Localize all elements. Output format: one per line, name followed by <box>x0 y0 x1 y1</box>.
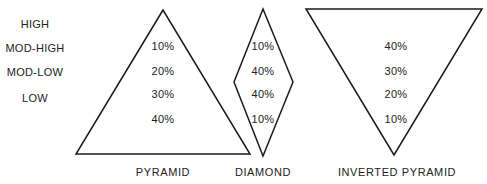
pyramid-value-mod-low: 30% <box>148 88 178 100</box>
row-label-low: LOW <box>0 92 70 104</box>
diamond-value-high: 10% <box>248 40 278 52</box>
inverted-pyramid-title: INVERTED PYRAMID <box>332 166 462 178</box>
pyramid-shape <box>76 10 250 154</box>
diamond-value-low: 10% <box>248 113 278 125</box>
pyramid-value-mod-high: 20% <box>148 65 178 77</box>
inverted-pyramid-value-low: 10% <box>381 113 411 125</box>
diamond-value-mod-high: 40% <box>248 65 278 77</box>
row-label-high: HIGH <box>0 18 70 30</box>
row-label-mod-low: MOD-LOW <box>0 66 70 78</box>
shapes-canvas <box>0 0 487 184</box>
inverted-pyramid-value-mod-low: 20% <box>381 88 411 100</box>
pyramid-title: PYRAMID <box>123 166 203 178</box>
diamond-value-mod-low: 40% <box>248 88 278 100</box>
inverted-pyramid-value-mod-high: 30% <box>381 65 411 77</box>
pyramid-value-high: 10% <box>148 40 178 52</box>
row-label-mod-high: MOD-HIGH <box>0 42 70 54</box>
diamond-title: DIAMOND <box>223 166 303 178</box>
inverted-pyramid-value-high: 40% <box>381 40 411 52</box>
inverted-pyramid-shape <box>306 9 482 155</box>
diamond-shape <box>234 9 293 156</box>
pyramid-value-low: 40% <box>148 113 178 125</box>
